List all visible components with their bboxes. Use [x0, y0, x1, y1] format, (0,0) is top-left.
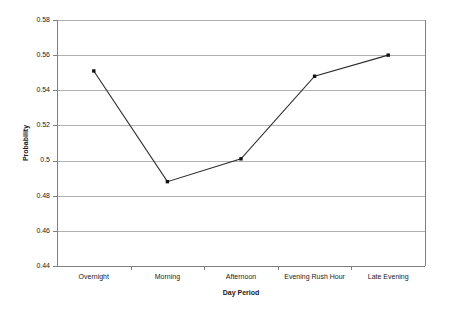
- y-tick-label: 0.56: [36, 51, 50, 58]
- chart-canvas: 0.580.560.540.520.50.480.460.44 Overnigh…: [0, 0, 450, 311]
- data-point-marker: [313, 75, 316, 78]
- x-tick-label: Evening Rush Hour: [284, 273, 345, 281]
- y-tick-label: 0.5: [40, 156, 50, 163]
- data-point-marker: [166, 180, 169, 183]
- y-tick-label: 0.48: [36, 192, 50, 199]
- x-axis-title: Day Period: [223, 289, 260, 297]
- y-tick-label: 0.46: [36, 227, 50, 234]
- data-point-marker: [92, 69, 95, 72]
- x-tick-label: Late Evening: [368, 273, 409, 281]
- y-tick-label: 0.58: [36, 16, 50, 23]
- x-tick-label: Afternoon: [226, 273, 256, 280]
- data-point-marker: [239, 157, 242, 160]
- x-tick-label: Morning: [155, 273, 180, 281]
- y-tick-label: 0.44: [36, 262, 50, 269]
- y-tick-label: 0.54: [36, 86, 50, 93]
- y-tick-label: 0.52: [36, 121, 50, 128]
- y-axis-title: Probability: [22, 125, 30, 161]
- chart-background: [0, 0, 450, 311]
- x-tick-label: Overnight: [79, 273, 109, 281]
- line-chart: 0.580.560.540.520.50.480.460.44 Overnigh…: [0, 0, 450, 311]
- data-point-marker: [387, 53, 390, 56]
